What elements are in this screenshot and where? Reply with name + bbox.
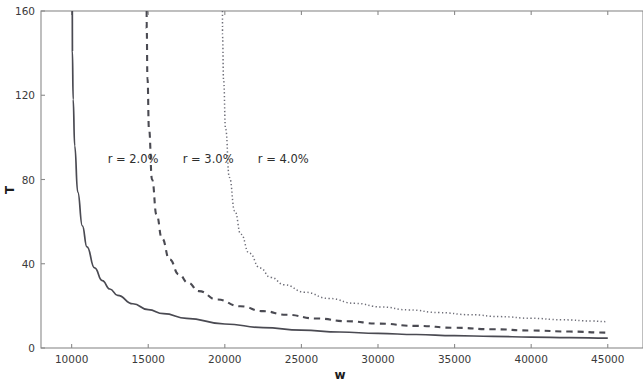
y-tick-label: 40 — [22, 258, 35, 270]
y-tick-label: 160 — [15, 5, 35, 17]
y-tick-label: 0 — [28, 342, 35, 354]
y-axis-title: T — [3, 185, 17, 194]
x-tick-label: 25000 — [285, 353, 318, 365]
plot-frame — [41, 11, 643, 348]
series-label-1: r = 2.0% — [108, 152, 159, 166]
x-tick-label: 45000 — [591, 353, 624, 365]
x-tick-label: 40000 — [514, 353, 547, 365]
x-tick-label: 10000 — [55, 353, 88, 365]
y-tick-label: 120 — [15, 89, 35, 101]
axis-frame — [41, 11, 643, 348]
series-label-3: r = 4.0% — [258, 152, 309, 166]
x-tick-label: 15000 — [132, 353, 165, 365]
x-tick-label: 20000 — [208, 353, 241, 365]
series-label-2: r = 3.0% — [183, 152, 234, 166]
series-annotations: r = 2.0%r = 3.0%r = 4.0% — [108, 152, 309, 166]
curve-series-2 — [147, 11, 608, 333]
x-axis-ticks: 1000015000200002500030000350004000045000 — [55, 11, 625, 365]
chart-figure: 1000015000200002500030000350004000045000… — [0, 0, 643, 386]
chart-canvas: 1000015000200002500030000350004000045000… — [0, 0, 643, 386]
curve-series-3 — [222, 11, 607, 322]
data-series-group — [72, 11, 607, 338]
curve-series-1 — [72, 11, 607, 338]
x-tick-label: 35000 — [438, 353, 471, 365]
x-tick-label: 30000 — [361, 353, 394, 365]
y-tick-label: 80 — [22, 174, 35, 186]
x-axis-title: w — [334, 368, 345, 382]
